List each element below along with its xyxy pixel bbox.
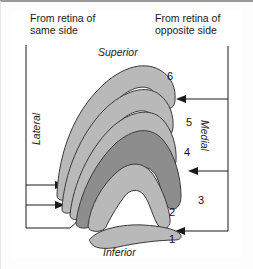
layer-number-5: 5	[186, 116, 192, 128]
medial-label: Medial	[199, 120, 211, 152]
right-arrow-4-head	[188, 167, 198, 175]
layer-number-6: 6	[167, 70, 173, 82]
layer-bands-group	[57, 66, 181, 249]
layer-number-4: 4	[184, 146, 190, 158]
right-caption-line1: From retina of	[155, 12, 220, 24]
right-arrow-6-head	[176, 95, 186, 103]
right-caption-line2: opposite side	[155, 24, 217, 36]
layer-number-2: 2	[169, 206, 175, 218]
layer-number-1: 1	[169, 233, 175, 245]
figure-container: From retina of same side From retina of …	[0, 0, 253, 269]
left-caption-line1: From retina of	[30, 12, 95, 24]
lgn-layers-diagram: From retina of same side From retina of …	[0, 0, 253, 269]
superior-label: Superior	[98, 46, 138, 58]
left-caption-line2: same side	[30, 24, 78, 36]
layer-number-3: 3	[198, 194, 204, 206]
lateral-label: Lateral	[30, 112, 42, 145]
